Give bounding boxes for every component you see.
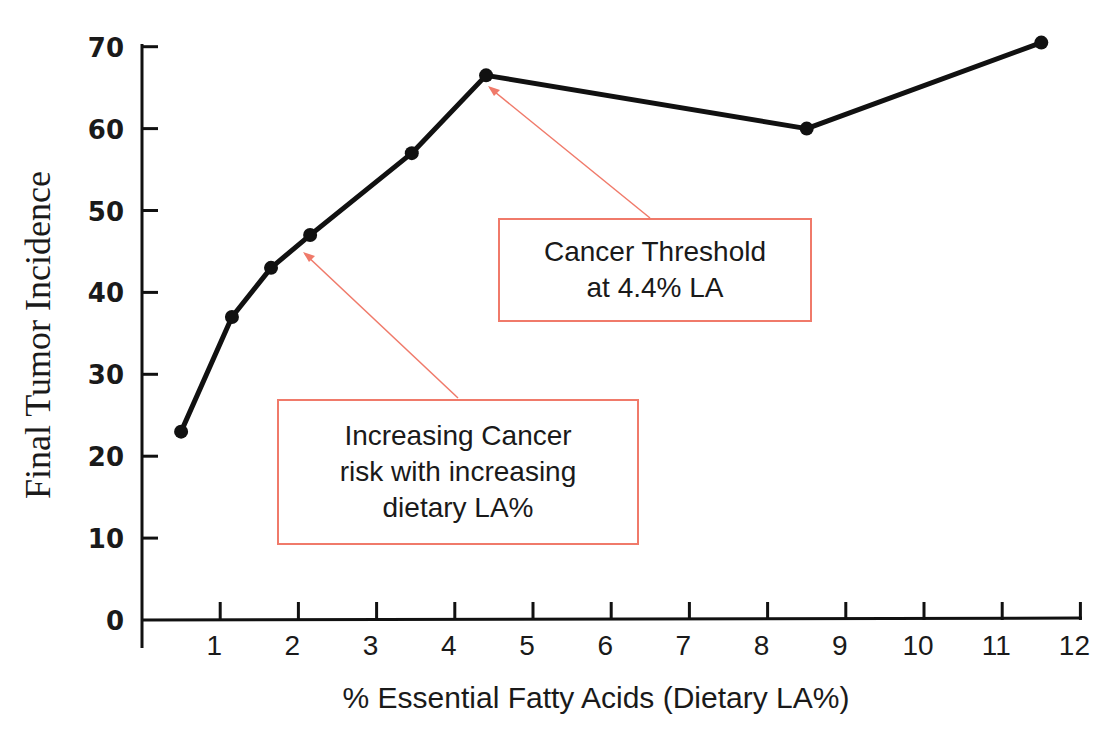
x-tick-label: 7 <box>676 630 692 661</box>
y-tick-label: 20 <box>88 442 124 472</box>
x-tick-label: 3 <box>363 630 379 661</box>
data-point <box>405 146 419 160</box>
line-chart: 010203040506070 123456789101112 % Essent… <box>0 0 1114 731</box>
annotation-threshold: Cancer Threshold at 4.4% LA <box>498 218 812 322</box>
annotation-line: Increasing Cancer <box>279 418 637 454</box>
x-axis: 123456789101112 <box>142 602 1090 661</box>
data-point <box>264 261 278 275</box>
x-tick-label: 10 <box>902 630 933 661</box>
y-tick-label: 10 <box>88 524 124 554</box>
x-tick-label: 2 <box>285 630 301 661</box>
y-tick-label: 50 <box>88 197 124 227</box>
data-point <box>800 122 814 136</box>
data-point <box>479 68 493 82</box>
annotation-line: at 4.4% LA <box>500 270 810 306</box>
y-tick-label: 0 <box>106 606 124 636</box>
x-tick-label: 6 <box>597 630 613 661</box>
data-point <box>174 425 188 439</box>
data-point <box>1034 36 1048 50</box>
x-tick-label: 8 <box>754 630 770 661</box>
y-axis-label: Final Tumor Incidence <box>18 171 58 499</box>
annotation-line: risk with increasing <box>279 454 637 490</box>
annotation-line: dietary LA% <box>279 490 637 526</box>
y-tick-label: 30 <box>88 360 124 390</box>
y-tick-label: 60 <box>88 115 124 145</box>
y-tick-label: 70 <box>88 33 124 63</box>
annotation-increasing: Increasing Cancer risk with increasing d… <box>277 399 639 545</box>
x-tick-label: 9 <box>832 630 848 661</box>
x-axis-label: % Essential Fatty Acids (Dietary LA%) <box>343 681 850 714</box>
x-tick-label: 1 <box>206 630 222 661</box>
data-point <box>303 228 317 242</box>
y-axis: 010203040506070 <box>88 33 158 648</box>
x-tick-label: 5 <box>519 630 535 661</box>
data-point <box>225 310 239 324</box>
x-tick-label: 4 <box>441 630 457 661</box>
x-tick-label: 11 <box>982 630 1011 661</box>
annotation-line: Cancer Threshold <box>500 234 810 270</box>
y-tick-label: 40 <box>88 278 124 308</box>
x-tick-label: 12 <box>1059 630 1090 661</box>
